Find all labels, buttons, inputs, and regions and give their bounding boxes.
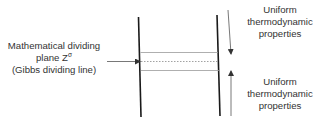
lower-region-label-line1: Uniform: [238, 76, 322, 88]
upper-region-label-line3: properties: [238, 28, 322, 40]
dividing-plane-label-line1: Mathematical dividing: [0, 40, 108, 52]
gibbs-dividing-surface-diagram: Mathematical dividing plane Zσ (Gibbs di…: [0, 0, 322, 123]
dividing-plane-label: Mathematical dividing plane Zσ (Gibbs di…: [0, 40, 108, 76]
upper-region-arrow: [228, 10, 231, 54]
sigma-superscript: σ: [68, 51, 72, 58]
lower-region-label-line2: thermodynamic: [238, 88, 322, 100]
lower-region-label: Uniform thermodynamic properties: [238, 76, 322, 112]
upper-region-label: Uniform thermodynamic properties: [238, 4, 322, 40]
dividing-plane-label-prefix: plane Z: [36, 52, 68, 63]
dividing-plane-label-line2: plane Zσ: [0, 52, 108, 64]
left-boundary-line: [139, 17, 142, 117]
right-boundary-line: [217, 15, 220, 116]
lower-region-label-line3: properties: [238, 100, 322, 112]
dividing-plane-label-line3: (Gibbs dividing line): [0, 64, 108, 76]
upper-region-label-line2: thermodynamic: [238, 16, 322, 28]
upper-region-label-line1: Uniform: [238, 4, 322, 16]
